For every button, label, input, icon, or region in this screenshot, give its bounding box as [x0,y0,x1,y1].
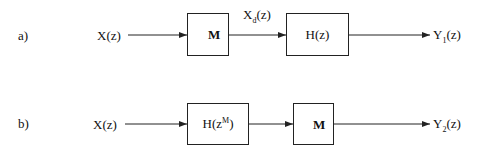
downsampler-block-b: M [293,103,334,145]
filter-name: H(z [203,116,223,131]
output-signal-a: Y1(z) [433,28,461,42]
signal-name: X [97,28,106,43]
signal-name: Y [433,27,442,42]
filter-block-a: H(z) [286,13,349,56]
signal-name: X [93,117,102,132]
signal-arg: (z) [446,27,460,42]
filter-close: ) [229,116,233,131]
input-signal-a: X(z) [97,29,121,43]
signal-arg: (z) [256,7,270,22]
signal-name: X [243,7,252,22]
downsample-factor: M [208,28,220,42]
downsampler-block-a: M [187,13,229,56]
signal-arg: (z) [102,117,116,132]
row-label-a: a) [18,29,28,43]
filter-label: H(zM) [188,117,248,131]
filter-label: H(z) [287,28,348,42]
downsample-factor: M [313,118,325,132]
output-signal-b: Y2(z) [433,117,461,131]
filter-block-b: H(zM) [187,103,249,145]
intermediate-signal-label: Xd(z) [243,8,271,22]
input-signal-b: X(z) [93,118,117,132]
filter-name: H [306,27,315,42]
filter-arg: (z) [315,27,329,42]
signal-arg: (z) [106,28,120,43]
signal-name: Y [433,116,442,131]
signal-arg: (z) [446,116,460,131]
row-label-b: b) [18,117,29,131]
